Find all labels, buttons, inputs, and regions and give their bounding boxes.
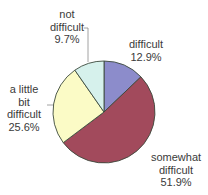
label-difficult-pct: 12.9% bbox=[124, 51, 168, 64]
label-not-difficult-pct: 9.7% bbox=[48, 33, 86, 46]
label-little-line1: a little bbox=[2, 83, 46, 96]
label-little-pct: 25.6% bbox=[2, 121, 46, 134]
label-difficult-line1: difficult bbox=[124, 38, 168, 51]
label-somewhat-line2: difficult bbox=[146, 164, 206, 177]
pie-slices bbox=[53, 61, 155, 163]
label-difficult: difficult 12.9% bbox=[124, 38, 168, 63]
label-little-line3: difficult bbox=[2, 108, 46, 121]
label-somewhat-difficult: somewhat difficult 51.9% bbox=[146, 151, 206, 189]
label-somewhat-line1: somewhat bbox=[146, 151, 206, 164]
label-little-line2: bit bbox=[2, 96, 46, 109]
label-somewhat-pct: 51.9% bbox=[146, 176, 206, 189]
label-not-difficult-line1: not bbox=[48, 8, 86, 21]
label-not-difficult: not difficult 9.7% bbox=[48, 8, 86, 46]
label-a-little-bit-difficult: a little bit difficult 25.6% bbox=[2, 83, 46, 133]
label-not-difficult-line2: difficult bbox=[48, 21, 86, 34]
